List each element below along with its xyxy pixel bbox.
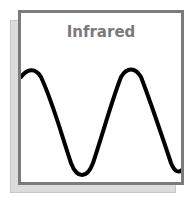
wave-icon bbox=[21, 13, 181, 182]
wave-panel: Infrared bbox=[18, 10, 184, 185]
